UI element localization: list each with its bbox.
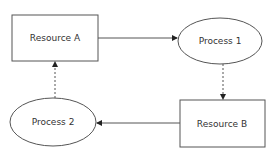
node-process-2: Process 2 (10, 98, 96, 146)
resource-a-label: Resource A (30, 33, 81, 43)
node-process-1: Process 1 (178, 18, 262, 64)
node-resource-a: Resource A (12, 15, 98, 61)
resource-b-label: Resource B (197, 119, 247, 129)
node-resource-b: Resource B (180, 100, 265, 147)
process-1-label: Process 1 (199, 36, 242, 46)
resource-process-diagram: Resource A Process 1 Resource B Process … (0, 0, 279, 157)
process-2-label: Process 2 (32, 117, 75, 127)
